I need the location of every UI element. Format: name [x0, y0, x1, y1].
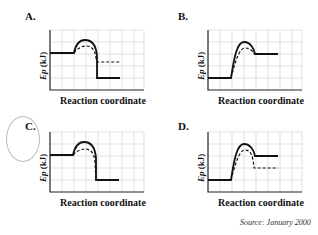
graph-b: B. Ep (kJ) Reaction coordinate	[168, 8, 318, 118]
y-axis-label: Ep (kJ)	[196, 52, 206, 80]
x-axis-label: Reaction coordinate	[60, 197, 146, 208]
y-axis-label: Ep (kJ)	[38, 154, 48, 182]
x-axis-label: Reaction coordinate	[218, 95, 304, 106]
graph-d: D. Ep (kJ) Reaction coordinate	[168, 118, 318, 228]
graph-c: C. Ep (kJ) Reaction coordinate	[10, 118, 160, 228]
energy-diagram	[168, 118, 318, 228]
energy-diagram	[10, 118, 160, 228]
source-citation: Source: January 2000	[240, 218, 311, 227]
y-axis-label: Ep (kJ)	[38, 52, 48, 80]
y-axis-label: Ep (kJ)	[196, 154, 206, 182]
x-axis-label: Reaction coordinate	[60, 95, 146, 106]
graph-a: A. Ep (kJ) Reaction coordinate	[10, 8, 160, 118]
x-axis-label: Reaction coordinate	[218, 197, 304, 208]
